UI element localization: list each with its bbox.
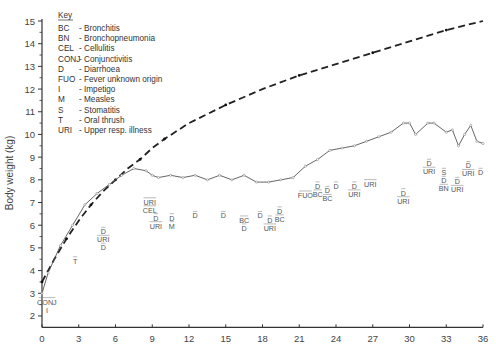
observed-point	[378, 136, 380, 138]
y-tick-label: 12	[24, 84, 35, 95]
observed-point	[353, 145, 355, 147]
x-tick-label: 24	[331, 333, 342, 344]
observed-point	[47, 272, 49, 274]
legend-abbr: BC	[58, 24, 69, 33]
illness-label: BC	[313, 190, 323, 199]
legend-meaning: - Conjunctivitis	[79, 55, 132, 64]
observed-point	[59, 245, 61, 247]
legend-abbr: BN	[58, 34, 69, 43]
y-tick-label: 15	[24, 16, 35, 27]
observed-point	[41, 292, 43, 294]
observed-point	[72, 224, 74, 226]
observed-point	[390, 131, 392, 133]
x-tick-label: 15	[220, 333, 231, 344]
illness-label: D	[242, 224, 247, 233]
illness-label: URI	[462, 169, 474, 178]
growth-chart: 2345678910111213141503691215182124273033…	[0, 0, 496, 352]
observed-point	[96, 192, 98, 194]
y-tick-label: 6	[30, 220, 35, 231]
observed-point	[170, 174, 172, 176]
legend-abbr: CONJ	[58, 55, 80, 64]
legend-meaning: - Upper resp. illness	[79, 126, 152, 135]
observed-point	[408, 122, 410, 124]
observed-point	[231, 179, 233, 181]
observed-point	[402, 122, 404, 124]
observed-point	[151, 174, 153, 176]
reference-point	[41, 281, 44, 284]
y-tick-label: 7	[30, 197, 35, 208]
observed-point	[457, 145, 459, 147]
illness-label: I	[46, 306, 48, 315]
illness-label: FUO	[298, 191, 314, 200]
observed-point	[206, 179, 208, 181]
legend-abbr: T	[58, 116, 63, 125]
illness-label: D	[221, 211, 226, 220]
observed-point	[243, 174, 245, 176]
observed-point	[482, 142, 484, 144]
x-tick-label: 6	[113, 333, 118, 344]
observed-point	[121, 174, 123, 176]
observed-point	[341, 147, 343, 149]
observed-point	[108, 183, 110, 185]
illness-label: D	[101, 243, 106, 252]
observed-point	[194, 174, 196, 176]
illness-label: BC	[322, 194, 332, 203]
illness-label: URI	[397, 197, 409, 206]
y-tick-label: 4	[30, 265, 35, 276]
legend-meaning: - Stomatitis	[79, 106, 120, 115]
reference-point	[139, 158, 142, 161]
observed-point	[145, 170, 147, 172]
observed-point	[133, 167, 135, 169]
x-tick-label: 36	[478, 333, 489, 344]
legend-meaning: - Impetigo	[79, 85, 116, 94]
x-tick-label: 33	[441, 333, 452, 344]
x-tick-label: 21	[294, 333, 305, 344]
legend-abbr: FUO	[58, 75, 75, 84]
observed-point	[182, 176, 184, 178]
x-tick-label: 18	[257, 333, 268, 344]
x-tick-label: 9	[150, 333, 155, 344]
observed-point	[433, 122, 435, 124]
observed-point	[304, 165, 306, 167]
reference-point	[224, 104, 227, 107]
y-tick-label: 10	[24, 129, 35, 140]
observed-point	[415, 133, 417, 135]
y-axis-title: Body weight (kg)	[4, 136, 15, 210]
y-tick-label: 5	[30, 242, 35, 253]
illness-label: M	[169, 222, 175, 231]
legend-abbr: M	[58, 95, 65, 104]
reference-point	[445, 29, 448, 32]
y-tick-label: 3	[30, 288, 35, 299]
observed-point	[464, 133, 466, 135]
illness-label: BN	[439, 184, 449, 193]
x-tick-label: 12	[184, 333, 195, 344]
legend-meaning: - Cellulitis	[79, 44, 115, 53]
observed-point	[329, 149, 331, 151]
illness-label: URI	[364, 180, 376, 189]
reference-point	[371, 51, 374, 54]
observed-point	[219, 174, 221, 176]
legend-abbr: D	[58, 65, 64, 74]
observed-point	[292, 176, 294, 178]
illness-label: URI	[451, 185, 463, 194]
y-tick-label: 9	[30, 152, 35, 163]
observed-point	[470, 124, 472, 126]
legend-key: KeyBC- BronchitisBN- BronchopneumoniaCEL…	[58, 11, 163, 135]
illness-label: D	[333, 182, 338, 191]
illness-label: URI	[264, 224, 276, 233]
legend-meaning: - Diarrhoea	[79, 65, 120, 74]
observed-point	[317, 158, 319, 160]
y-tick-label: 13	[24, 61, 35, 72]
legend-meaning: - Fever unknown origin	[79, 75, 163, 84]
legend-abbr: URI	[58, 126, 72, 135]
x-tick-label: 27	[367, 333, 378, 344]
illness-label: D	[193, 211, 198, 220]
reference-point	[90, 203, 93, 206]
reference-point	[298, 74, 301, 77]
observed-point	[445, 131, 447, 133]
reference-point	[163, 138, 166, 141]
y-tick-label: 8	[30, 174, 35, 185]
observed-point	[84, 204, 86, 206]
y-tick-label: 2	[30, 310, 35, 321]
legend-abbr: S	[58, 106, 64, 115]
